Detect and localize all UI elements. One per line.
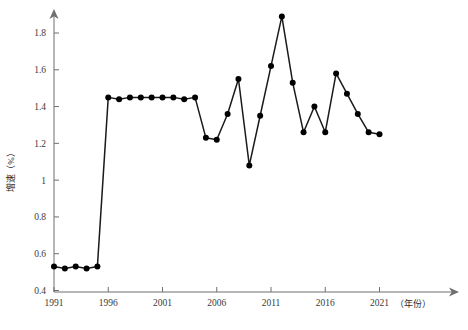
data-point — [181, 96, 187, 102]
x-axis — [54, 288, 459, 297]
data-point — [214, 137, 220, 143]
x-tick-label: 2021 — [370, 298, 389, 308]
x-tick-label: 2016 — [316, 298, 335, 308]
line-chart: 0.40.60.811.21.41.61.8 19911996200120062… — [0, 0, 468, 330]
data-point-markers — [51, 13, 383, 271]
data-point — [105, 94, 111, 100]
y-tick-label: 0.8 — [34, 212, 46, 222]
data-point — [116, 96, 122, 102]
x-tick-label: 2006 — [207, 298, 226, 308]
data-point — [138, 94, 144, 100]
y-tick-label: 1.8 — [34, 28, 46, 38]
data-point — [203, 135, 209, 141]
data-point — [311, 104, 317, 110]
figure-container: 0.40.60.811.21.41.61.8 19911996200120062… — [0, 0, 468, 330]
data-point — [73, 264, 79, 270]
data-point — [355, 111, 361, 117]
data-point — [94, 264, 100, 270]
data-point — [127, 94, 133, 100]
x-tick-label: 2011 — [262, 298, 281, 308]
y-tick-label: 1.6 — [34, 65, 46, 75]
x-axis-title: （年份） — [395, 298, 431, 309]
data-point — [51, 264, 57, 270]
x-tick-label: 1991 — [45, 298, 64, 308]
y-tick-label: 0.6 — [34, 249, 46, 259]
x-tick-label: 1996 — [99, 298, 118, 308]
y-tick-label: 1.4 — [34, 102, 46, 112]
data-point — [170, 94, 176, 100]
data-point — [84, 265, 90, 271]
data-point — [333, 70, 339, 76]
data-point — [322, 129, 328, 135]
data-point — [235, 76, 241, 82]
data-point — [149, 94, 155, 100]
y-axis — [50, 9, 59, 292]
x-axis-ticks: 1991199620012006201120162021 — [45, 287, 390, 308]
data-point — [246, 162, 252, 168]
data-point — [62, 265, 68, 271]
y-tick-label: 0.4 — [34, 286, 46, 296]
data-point — [225, 111, 231, 117]
data-point — [257, 113, 263, 119]
data-point — [279, 13, 285, 19]
y-axis-ticks: 0.40.60.811.21.41.61.8 — [34, 28, 59, 296]
data-point — [268, 63, 274, 69]
data-point — [301, 129, 307, 135]
data-point — [377, 131, 383, 137]
figure-caption — [0, 314, 468, 330]
data-point — [366, 129, 372, 135]
y-tick-label: 1 — [41, 176, 46, 186]
data-point — [192, 94, 198, 100]
data-point — [344, 91, 350, 97]
x-tick-label: 2001 — [153, 298, 172, 308]
data-point — [160, 94, 166, 100]
y-axis-title: 增速（%） — [5, 148, 16, 192]
y-tick-label: 1.2 — [34, 139, 46, 149]
data-point — [290, 80, 296, 86]
